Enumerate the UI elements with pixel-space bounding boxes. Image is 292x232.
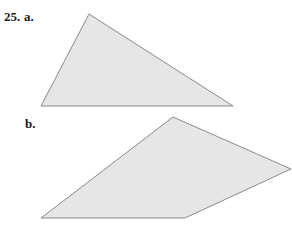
triangle-figure bbox=[41, 14, 233, 106]
quadrilateral-figure bbox=[41, 117, 291, 218]
figure-canvas bbox=[0, 0, 292, 232]
